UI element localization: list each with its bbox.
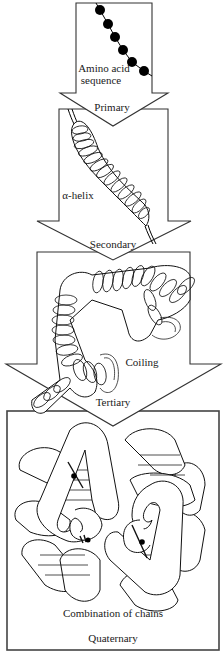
level-label-quaternary: Quaternary (88, 632, 138, 644)
caption-amino-acid: Amino acid (78, 62, 130, 74)
primary-arrow: Amino acid sequence Primary (60, 3, 168, 126)
caption-combination-of-chains: Combination of chains (63, 607, 163, 619)
caption-alpha-helix: α-helix (62, 189, 94, 201)
quaternary-panel: Combination of chains Quaternary (7, 411, 219, 650)
level-label-primary: Primary (94, 101, 130, 113)
level-label-secondary: Secondary (90, 238, 137, 250)
level-label-tertiary: Tertiary (96, 396, 131, 408)
protein-structure-diagram: Combination of chains Quaternary (0, 0, 223, 656)
tertiary-arrow: Coiling Tertiary (6, 252, 221, 426)
secondary-arrow: α-helix Secondary (37, 109, 191, 260)
caption-sequence: sequence (81, 74, 121, 86)
caption-coiling: Coiling (125, 356, 159, 368)
